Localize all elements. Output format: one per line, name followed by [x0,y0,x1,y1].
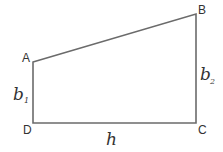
side-label-b1-main: b [13,84,24,104]
side-label-b2: b 2 [200,64,215,86]
vertex-label-a: A [22,51,30,65]
trapezoid-shape [33,14,196,123]
side-label-b1-subscript: 1 [24,96,29,105]
side-label-h: h [106,129,117,149]
vertex-label-c: C [198,123,207,137]
trapezoid-diagram: A B C D b 1 b 2 h [0,0,223,152]
vertex-label-b: B [198,3,206,17]
vertex-label-d: D [23,123,32,137]
side-label-b1: b 1 [13,84,29,105]
side-label-b2-subscript: 2 [209,77,215,86]
